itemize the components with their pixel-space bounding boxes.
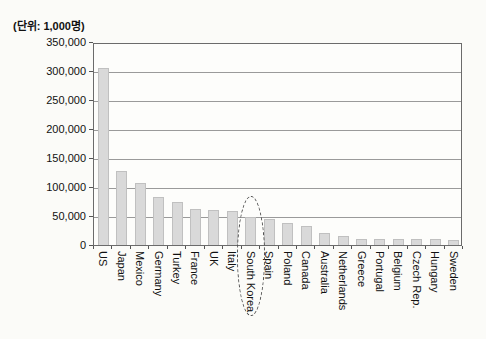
x-tick-mark <box>388 246 389 249</box>
y-tick-label-100000: 100,000 <box>16 181 86 193</box>
x-label-japan: Japan <box>116 251 127 281</box>
x-label-turkey: Turkey <box>171 251 182 284</box>
bar-canada <box>301 226 312 245</box>
x-tick-mark <box>370 246 371 249</box>
y-tick-mark <box>89 71 93 72</box>
bar-uk <box>208 210 219 245</box>
x-label-greece: Greece <box>356 251 367 287</box>
x-tick-mark <box>425 246 426 249</box>
x-label-portugal: Portugal <box>374 251 385 292</box>
x-tick-mark <box>462 246 463 249</box>
x-tick-mark <box>148 246 149 249</box>
bar-netherlands <box>338 236 349 245</box>
x-label-belgium: Belgium <box>392 251 403 291</box>
x-tick-mark <box>407 246 408 249</box>
gridline-200000 <box>94 130 461 131</box>
gridline-50000 <box>94 217 461 218</box>
y-tick-label-200000: 200,000 <box>16 123 86 135</box>
x-tick-mark <box>278 246 279 249</box>
x-label-italy: Italy <box>226 251 237 271</box>
x-tick-mark <box>93 246 94 249</box>
x-label-sweden: Sweden <box>448 251 459 291</box>
x-label-hungary: Hungary <box>429 251 440 293</box>
y-tick-mark <box>89 216 93 217</box>
bar-japan <box>116 171 127 245</box>
y-tick-label-300000: 300,000 <box>16 65 86 77</box>
x-tick-mark <box>351 246 352 249</box>
y-tick-label-250000: 250,000 <box>16 94 86 106</box>
y-tick-mark <box>89 158 93 159</box>
gridline-250000 <box>94 101 461 102</box>
bar-france <box>190 209 201 245</box>
x-tick-mark <box>167 246 168 249</box>
bar-turkey <box>172 202 183 245</box>
x-label-france: France <box>189 251 200 285</box>
bar-italy <box>227 211 238 245</box>
x-label-germany: Germany <box>153 251 164 296</box>
x-label-australia: Australia <box>319 251 330 294</box>
y-tick-mark <box>89 42 93 43</box>
x-tick-mark <box>130 246 131 249</box>
x-tick-mark <box>333 246 334 249</box>
x-label-mexico: Mexico <box>134 251 145 286</box>
south-korea-highlight-ellipse <box>237 196 265 316</box>
x-tick-mark <box>314 246 315 249</box>
y-tick-label-150000: 150,000 <box>16 152 86 164</box>
x-tick-mark <box>222 246 223 249</box>
bar-portugal <box>374 239 385 245</box>
bar-belgium <box>393 239 404 245</box>
x-tick-mark <box>185 246 186 249</box>
x-tick-mark <box>296 246 297 249</box>
gridline-150000 <box>94 159 461 160</box>
gridline-100000 <box>94 188 461 189</box>
x-label-canada: Canada <box>300 251 311 290</box>
y-tick-mark <box>89 129 93 130</box>
x-label-poland: Poland <box>282 251 293 285</box>
bar-germany <box>153 197 164 245</box>
x-label-uk: UK <box>208 251 219 266</box>
y-tick-mark <box>89 187 93 188</box>
bar-mexico <box>135 183 146 245</box>
y-tick-mark <box>89 100 93 101</box>
bar-poland <box>282 223 293 245</box>
bar-sweden <box>448 240 459 245</box>
bar-hungary <box>430 239 441 245</box>
bar-greece <box>356 239 367 245</box>
y-tick-label-0: 0 <box>16 239 86 251</box>
population-bar-chart: (단위: 1,000명) 350,000300,000250,000200,00… <box>0 0 486 339</box>
y-tick-label-50000: 50,000 <box>16 210 86 222</box>
x-tick-mark <box>204 246 205 249</box>
bar-australia <box>319 233 330 245</box>
bar-us <box>98 68 109 245</box>
x-label-us: US <box>97 251 108 266</box>
plot-area <box>93 43 462 246</box>
y-tick-label-350000: 350,000 <box>16 36 86 48</box>
bar-spain <box>264 219 275 245</box>
x-label-netherlands: Netherlands <box>337 251 348 310</box>
bar-czech-rep- <box>411 239 422 245</box>
x-tick-mark <box>111 246 112 249</box>
gridline-300000 <box>94 72 461 73</box>
unit-label: (단위: 1,000명) <box>13 17 85 33</box>
x-tick-mark <box>444 246 445 249</box>
x-label-czech-rep-: Czech Rep. <box>411 251 422 308</box>
